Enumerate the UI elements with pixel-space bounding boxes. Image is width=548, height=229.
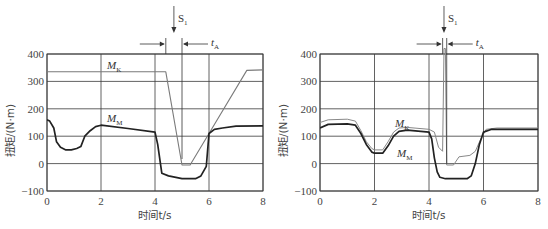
y-axis-title: 扭矩/(N·m): [277, 104, 289, 157]
y-tick-label: 100: [301, 130, 318, 142]
right-chart-panel: −100010020030040002468时间t/s扭矩/(N·m)MKMMS…: [277, 6, 541, 221]
series-label-mm: MM: [396, 147, 413, 162]
y-tick-label: 0: [312, 158, 318, 170]
y-tick-label: −100: [21, 185, 44, 197]
x-tick-label: 4: [152, 195, 158, 207]
y-tick-label: 200: [28, 103, 45, 115]
x-tick-label: 8: [535, 195, 541, 207]
x-tick-label: 6: [481, 195, 487, 207]
x-tick-label: 0: [317, 195, 323, 207]
y-tick-label: 100: [28, 130, 45, 142]
x-tick-label: 6: [206, 195, 212, 207]
s1-label: S1: [448, 12, 458, 27]
y-tick-label: 200: [301, 103, 318, 115]
x-axis-title: 时间t/s: [412, 209, 445, 221]
series-label-mm: MM: [106, 112, 123, 127]
x-tick-label: 4: [426, 195, 432, 207]
y-axis-title: 扭矩/(N·m): [4, 104, 16, 157]
y-tick-label: 400: [28, 48, 45, 60]
x-tick-label: 8: [260, 195, 266, 207]
x-tick-label: 2: [372, 195, 378, 207]
y-tick-label: 0: [39, 158, 45, 170]
ta-label: tA: [211, 36, 219, 51]
y-tick-label: 300: [301, 75, 318, 87]
y-tick-label: 400: [301, 48, 318, 60]
s1-arrow-head-icon: [441, 27, 446, 33]
torque-charts: −100010020030040002468时间t/s扭矩/(N·m)MKMMS…: [0, 0, 548, 229]
ta-label: tA: [476, 36, 484, 51]
x-tick-label: 2: [98, 195, 104, 207]
s1-arrow-head-icon: [171, 27, 176, 33]
arrow-right-icon: [437, 42, 442, 47]
arrow-right-icon: [160, 42, 165, 47]
y-tick-label: 300: [28, 75, 45, 87]
s1-label: S1: [178, 12, 188, 27]
arrow-left-icon: [183, 42, 188, 47]
y-tick-label: −100: [294, 185, 317, 197]
left-chart-panel: −100010020030040002468时间t/s扭矩/(N·m)MKMMS…: [4, 6, 266, 221]
arrow-left-icon: [448, 42, 453, 47]
x-tick-label: 0: [44, 195, 50, 207]
x-axis-title: 时间t/s: [138, 209, 171, 221]
